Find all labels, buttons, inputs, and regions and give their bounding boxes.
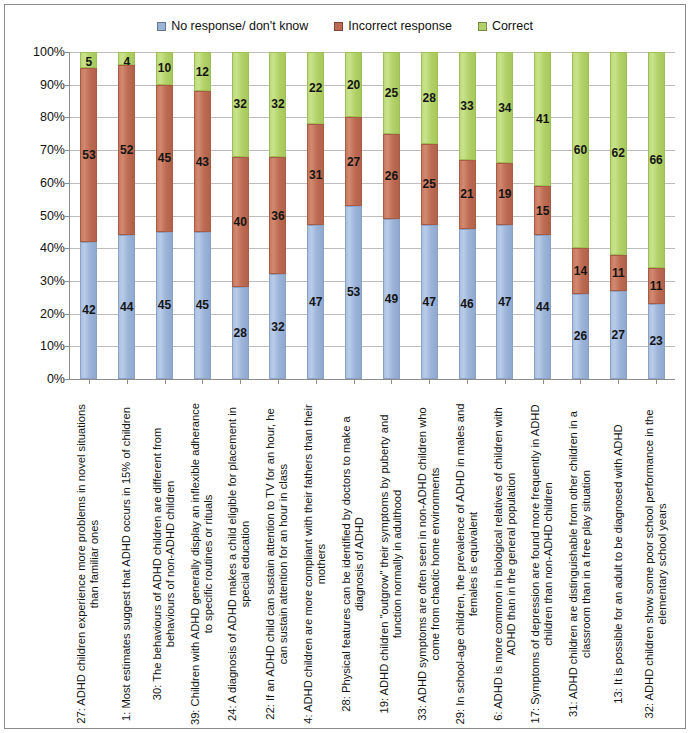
- y-tick-label: 50%: [40, 209, 65, 223]
- stacked-bar[interactable]: 45244: [118, 52, 135, 379]
- bar-slot: 124345: [183, 52, 221, 379]
- stacked-bar[interactable]: 124345: [194, 52, 211, 379]
- segment-correct[interactable]: 41: [534, 52, 551, 186]
- segment-no-response[interactable]: 32: [269, 274, 286, 379]
- segment-correct[interactable]: 28: [421, 52, 438, 144]
- segment-no-response[interactable]: 45: [194, 232, 211, 379]
- segment-no-response[interactable]: 23: [648, 304, 665, 379]
- legend-item-no-response[interactable]: No response/ don't know: [157, 19, 308, 33]
- segment-no-response[interactable]: 26: [572, 294, 589, 379]
- stacked-bar[interactable]: 202753: [345, 52, 362, 379]
- segment-correct[interactable]: 33: [459, 52, 476, 160]
- legend-item-incorrect-response[interactable]: Incorrect response: [334, 19, 452, 33]
- segment-correct[interactable]: 32: [232, 52, 249, 157]
- segment-incorrect-response[interactable]: 21: [459, 160, 476, 229]
- stacked-bar[interactable]: 223147: [307, 52, 324, 379]
- x-label-slot: 4: ADHD children are more compliant with…: [296, 397, 334, 729]
- segment-no-response[interactable]: 44: [118, 235, 135, 379]
- bar-value-label: 41: [536, 112, 549, 126]
- stacked-bar[interactable]: 55342: [80, 52, 97, 379]
- segment-incorrect-response[interactable]: 53: [80, 68, 97, 241]
- stacked-bar[interactable]: 324028: [232, 52, 249, 379]
- bar-value-label: 19: [498, 187, 511, 201]
- bar-value-label: 40: [233, 215, 246, 229]
- legend-label-incorrect-response: Incorrect response: [348, 19, 452, 33]
- bar-value-label: 45: [158, 298, 171, 312]
- segment-incorrect-response[interactable]: 15: [534, 186, 551, 235]
- stacked-bar[interactable]: 621127: [610, 52, 627, 379]
- segment-incorrect-response[interactable]: 11: [648, 268, 665, 304]
- segment-correct[interactable]: 5: [80, 52, 97, 68]
- segment-incorrect-response[interactable]: 36: [269, 157, 286, 275]
- segment-incorrect-response[interactable]: 11: [610, 255, 627, 291]
- segment-correct[interactable]: 25: [383, 52, 400, 134]
- segment-incorrect-response[interactable]: 25: [421, 144, 438, 226]
- bar-value-label: 44: [536, 300, 549, 314]
- segment-no-response[interactable]: 53: [345, 206, 362, 379]
- segment-correct[interactable]: 22: [307, 52, 324, 124]
- segment-no-response[interactable]: 46: [459, 229, 476, 379]
- stacked-bar[interactable]: 323632: [269, 52, 286, 379]
- segment-no-response[interactable]: 47: [307, 225, 324, 379]
- bar-slot: 252649: [373, 52, 411, 379]
- stacked-bar[interactable]: 661123: [648, 52, 665, 379]
- segment-incorrect-response[interactable]: 43: [194, 91, 211, 232]
- stacked-bar[interactable]: 332146: [459, 52, 476, 379]
- bar-value-label: 26: [385, 169, 398, 183]
- y-tick-label: 20%: [40, 307, 65, 321]
- segment-no-response[interactable]: 45: [156, 232, 173, 379]
- segment-correct[interactable]: 4: [118, 52, 135, 65]
- segment-correct[interactable]: 12: [194, 52, 211, 91]
- x-label-slot: 29: In school-age children, the prevalen…: [448, 397, 486, 729]
- segment-no-response[interactable]: 47: [421, 225, 438, 379]
- segment-correct[interactable]: 34: [496, 52, 513, 163]
- x-axis-category-label: 22: If an ADHD child can sustain attenti…: [264, 401, 290, 727]
- x-tick-mark: [656, 379, 657, 384]
- segment-incorrect-response[interactable]: 40: [232, 157, 249, 288]
- x-tick-mark: [391, 379, 392, 384]
- stacked-bar[interactable]: 282547: [421, 52, 438, 379]
- bar-value-label: 23: [649, 334, 662, 348]
- y-tick-label: 0%: [47, 372, 65, 386]
- segment-no-response[interactable]: 27: [610, 291, 627, 379]
- x-label-slot: 39: Children with ADHD generally display…: [183, 397, 221, 729]
- stacked-bar[interactable]: 411544: [534, 52, 551, 379]
- segment-incorrect-response[interactable]: 52: [118, 65, 135, 235]
- segment-incorrect-response[interactable]: 45: [156, 85, 173, 232]
- segment-no-response[interactable]: 44: [534, 235, 551, 379]
- legend-swatch-incorrect-response: [334, 22, 343, 31]
- segment-incorrect-response[interactable]: 31: [307, 124, 324, 225]
- segment-correct[interactable]: 10: [156, 52, 173, 85]
- x-axis-category-label: 39: Children with ADHD generally display…: [189, 401, 215, 727]
- legend-item-correct[interactable]: Correct: [478, 19, 533, 33]
- bar-value-label: 31: [309, 168, 322, 182]
- stacked-bar[interactable]: 104545: [156, 52, 173, 379]
- segment-correct[interactable]: 66: [648, 52, 665, 268]
- x-axis-category-label: 27: ADHD children experience more proble…: [75, 401, 101, 727]
- bar-value-label: 20: [347, 78, 360, 92]
- segment-incorrect-response[interactable]: 14: [572, 248, 589, 294]
- x-axis-labels: 27: ADHD children experience more proble…: [69, 397, 675, 729]
- bar-value-label: 32: [271, 97, 284, 111]
- bar-value-label: 45: [158, 151, 171, 165]
- segment-correct[interactable]: 60: [572, 52, 589, 248]
- segment-no-response[interactable]: 42: [80, 242, 97, 379]
- segment-correct[interactable]: 62: [610, 52, 627, 255]
- stacked-bar[interactable]: 601426: [572, 52, 589, 379]
- segment-correct[interactable]: 32: [269, 52, 286, 157]
- bar-value-label: 21: [460, 187, 473, 201]
- segment-no-response[interactable]: 49: [383, 219, 400, 379]
- bar-slot: 341947: [486, 52, 524, 379]
- stacked-bar[interactable]: 341947: [496, 52, 513, 379]
- segment-incorrect-response[interactable]: 19: [496, 163, 513, 225]
- y-tick-label: 90%: [40, 78, 65, 92]
- segment-incorrect-response[interactable]: 26: [383, 134, 400, 219]
- bar-value-label: 11: [650, 279, 663, 293]
- bar-slot: 332146: [448, 52, 486, 379]
- segment-no-response[interactable]: 47: [496, 225, 513, 379]
- y-tick-label: 70%: [40, 143, 65, 157]
- segment-no-response[interactable]: 28: [232, 287, 249, 379]
- segment-incorrect-response[interactable]: 27: [345, 117, 362, 205]
- segment-correct[interactable]: 20: [345, 52, 362, 117]
- stacked-bar[interactable]: 252649: [383, 52, 400, 379]
